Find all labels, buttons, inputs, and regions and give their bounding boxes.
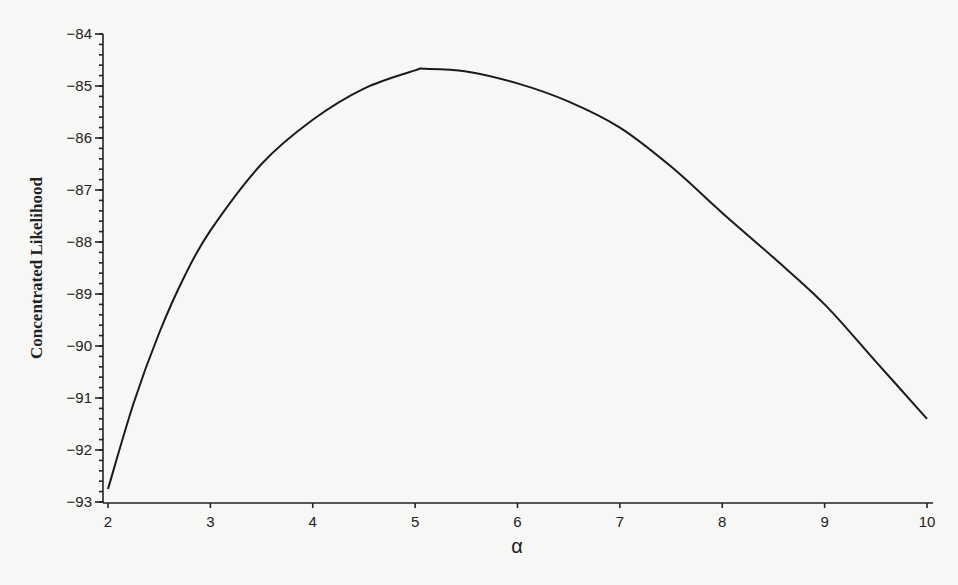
likelihood-chart: −84−85−86−87−88−89−90−91−92−93 234567891… <box>0 0 958 585</box>
x-axis-title: α <box>511 535 523 557</box>
y-axis: −84−85−86−87−88−89−90−91−92−93 <box>67 25 103 510</box>
y-tick-label: −85 <box>67 77 92 94</box>
x-tick-label: 9 <box>820 513 828 530</box>
x-tick-label: 2 <box>104 513 112 530</box>
y-tick-label: −84 <box>67 25 92 42</box>
x-tick-label: 4 <box>309 513 317 530</box>
x-tick-label: 5 <box>411 513 419 530</box>
x-tick-label: 3 <box>206 513 214 530</box>
x-tick-label: 10 <box>919 513 936 530</box>
y-axis-title: Concentrated Likelihood <box>27 177 46 359</box>
y-tick-label: −89 <box>67 285 92 302</box>
y-tick-label: −93 <box>67 493 92 510</box>
x-axis: 2345678910 <box>103 503 935 530</box>
y-tick-label: −88 <box>67 233 92 250</box>
y-tick-label: −91 <box>67 389 92 406</box>
x-tick-label: 6 <box>513 513 521 530</box>
y-tick-label: −92 <box>67 441 92 458</box>
likelihood-curve <box>108 68 927 489</box>
x-tick-label: 7 <box>616 513 624 530</box>
y-tick-label: −86 <box>67 129 92 146</box>
y-tick-label: −87 <box>67 181 92 198</box>
y-tick-label: −90 <box>67 337 92 354</box>
x-tick-label: 8 <box>718 513 726 530</box>
